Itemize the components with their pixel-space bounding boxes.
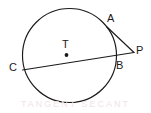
geometry-canvas (0, 0, 151, 113)
point-label-p: P (136, 45, 143, 56)
geometry-figure: A P B C T TANGENT SECANT (0, 0, 151, 113)
circle-outline (23, 9, 117, 103)
tangent-line-ap (107, 27, 134, 53)
point-label-t: T (62, 39, 69, 50)
point-label-c: C (9, 62, 17, 73)
center-point-dot (65, 53, 69, 57)
point-label-b: B (116, 60, 123, 71)
point-label-a: A (107, 13, 114, 24)
